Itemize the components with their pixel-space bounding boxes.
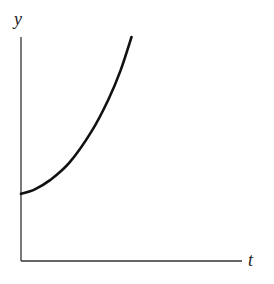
x-axis-label: t [248,251,253,269]
y-axis-label: y [14,10,22,28]
data-curve [21,37,132,194]
chart-plot [0,0,274,284]
